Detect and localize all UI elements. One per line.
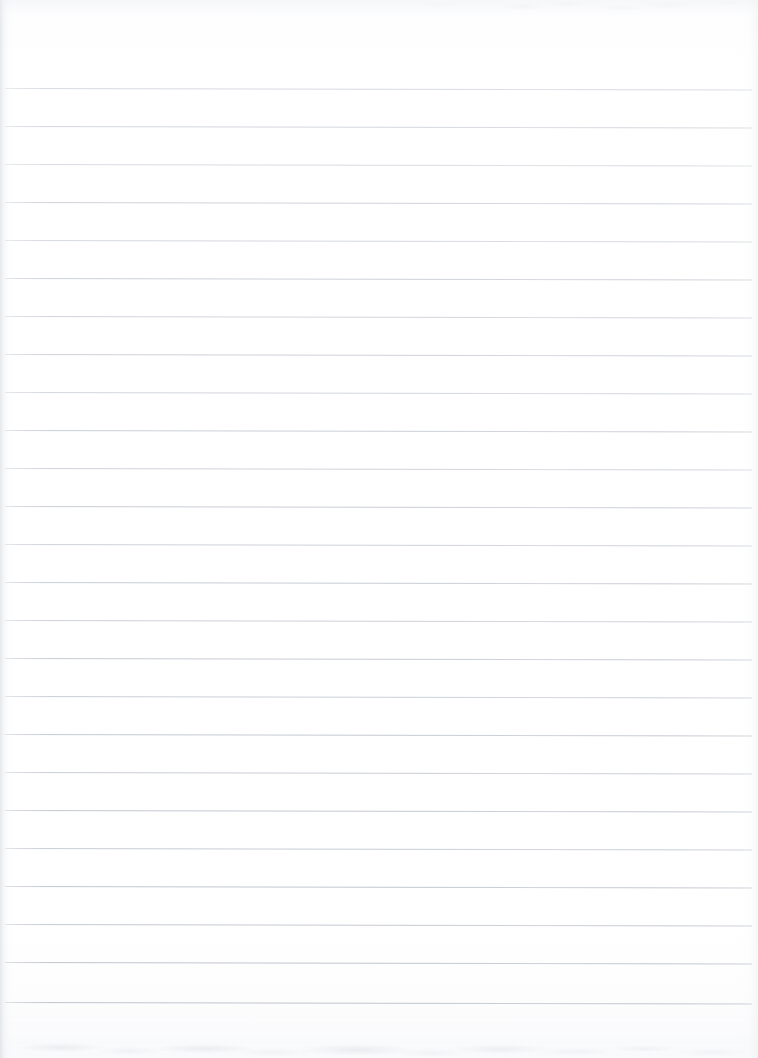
scanned-page (0, 0, 758, 1058)
page-writing-area[interactable] (5, 88, 752, 1002)
